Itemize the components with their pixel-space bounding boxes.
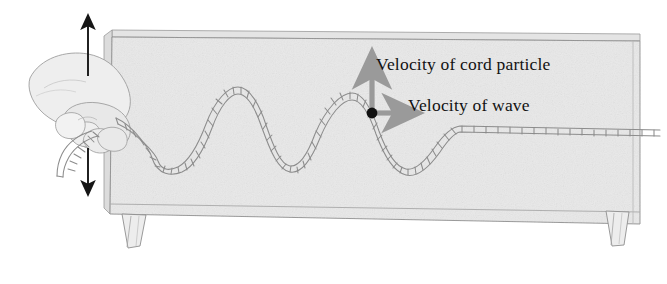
diagram-canvas <box>0 0 667 284</box>
velocity-of-cord-particle-label: Velocity of cord particle <box>376 56 551 74</box>
figure-wave-on-cord: Velocity of cord particle Velocity of wa… <box>0 0 667 284</box>
velocity-of-wave-label: Velocity of wave <box>408 97 530 115</box>
cord-particle-dot <box>367 108 378 119</box>
table-leg-left <box>122 214 146 248</box>
table <box>104 30 640 248</box>
table-leg-right <box>606 211 629 246</box>
hand-gripping-cord <box>29 53 130 153</box>
